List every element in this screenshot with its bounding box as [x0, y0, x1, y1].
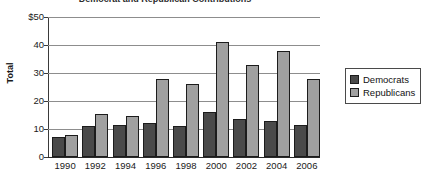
y-axis-tick — [44, 101, 48, 102]
y-axis-line — [48, 17, 49, 157]
bar-group — [52, 17, 78, 157]
y-axis-tick-labels: $50403020100 — [0, 17, 44, 157]
bar-group — [173, 17, 199, 157]
y-axis-tick — [44, 129, 48, 130]
bar-democrats-2004 — [264, 121, 277, 157]
y-axis-tick — [44, 157, 48, 158]
bar-democrats-2006 — [294, 125, 307, 157]
y-axis-tick-label: $50 — [0, 11, 44, 22]
y-axis-tick — [44, 73, 48, 74]
bar-democrats-2000 — [203, 112, 216, 157]
legend-item-republicans: Republicans — [350, 86, 415, 99]
bar-group — [113, 17, 139, 157]
x-axis-tick-labels: 199019921994199619982000200220042006 — [48, 160, 320, 176]
chart-title: Democrat and Republican Contributions — [0, 0, 330, 4]
bar-democrats-1992 — [82, 126, 95, 157]
bar-chart: Democrat and Republican Contributions To… — [0, 0, 434, 185]
legend-label: Republicans — [363, 87, 415, 98]
bar-group — [233, 17, 259, 157]
y-axis-tick-label: 30 — [0, 67, 44, 78]
bar-republicans-1994 — [126, 116, 139, 157]
x-axis-tick-label: 2006 — [287, 160, 327, 171]
bar-democrats-1996 — [143, 123, 156, 157]
bar-group — [264, 17, 290, 157]
bar-group — [294, 17, 320, 157]
legend-swatch-icon — [350, 88, 359, 97]
legend-item-democrats: Democrats — [350, 73, 415, 86]
bar-democrats-1990 — [52, 137, 65, 157]
y-axis-tick — [44, 17, 48, 18]
bar-group — [143, 17, 169, 157]
bar-group — [203, 17, 229, 157]
bar-group — [82, 17, 108, 157]
bar-republicans-2004 — [277, 51, 290, 157]
bar-democrats-1994 — [113, 125, 126, 157]
bar-democrats-1998 — [173, 126, 186, 157]
bar-republicans-2002 — [246, 65, 259, 157]
y-axis-tick-label: 10 — [0, 123, 44, 134]
bar-democrats-2002 — [233, 119, 246, 157]
bar-republicans-2006 — [307, 79, 320, 157]
y-axis-tick — [44, 45, 48, 46]
plot-area — [48, 17, 320, 157]
chart-legend: DemocratsRepublicans — [345, 68, 421, 104]
y-axis-tick-label: 20 — [0, 95, 44, 106]
bar-republicans-2000 — [216, 42, 229, 157]
bar-republicans-1990 — [65, 135, 78, 157]
y-axis-tick-label: 0 — [0, 151, 44, 162]
x-axis-baseline — [48, 157, 320, 158]
bar-republicans-1992 — [95, 114, 108, 157]
legend-swatch-icon — [350, 75, 359, 84]
y-axis-tick-label: 40 — [0, 39, 44, 50]
legend-label: Democrats — [363, 74, 409, 85]
bar-republicans-1996 — [156, 79, 169, 157]
bar-republicans-1998 — [186, 84, 199, 157]
